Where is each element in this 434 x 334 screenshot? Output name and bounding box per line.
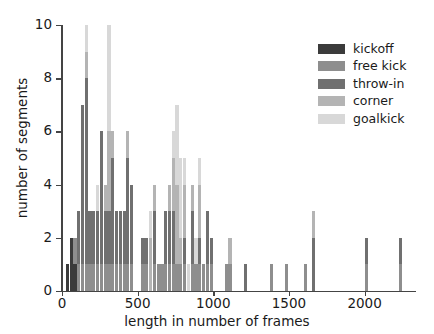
histogram-bar	[153, 185, 156, 212]
histogram-bar	[115, 211, 118, 264]
histogram-bar	[81, 105, 84, 265]
legend-label: corner	[353, 95, 393, 108]
histogram-bar	[172, 211, 175, 264]
histogram-bar	[198, 238, 201, 265]
histogram-bar	[228, 238, 231, 265]
histogram-bar	[172, 158, 175, 211]
histogram-bar	[70, 238, 73, 291]
legend-label: kickoff	[353, 43, 394, 56]
histogram-bar	[104, 264, 107, 291]
histogram-figure: 02468100500100015002000 length in number…	[0, 0, 434, 334]
histogram-bar	[107, 131, 110, 211]
histogram-bar	[198, 264, 201, 291]
histogram-bar	[111, 264, 114, 291]
histogram-bar	[73, 238, 76, 265]
histogram-bar	[111, 131, 114, 158]
histogram-bar	[365, 238, 368, 265]
histogram-bar	[107, 264, 110, 291]
histogram-bar	[285, 264, 288, 291]
histogram-bar	[130, 185, 133, 265]
histogram-bar	[198, 185, 201, 238]
histogram-bar	[183, 264, 186, 291]
histogram-bar	[175, 264, 178, 291]
histogram-bar	[179, 238, 182, 265]
legend-swatch-icon	[318, 61, 345, 71]
legend-item-kickoff: kickoff	[318, 40, 406, 58]
histogram-bar	[183, 158, 186, 185]
histogram-bar	[168, 264, 171, 291]
histogram-bar	[145, 264, 148, 291]
y-tick	[56, 238, 61, 239]
legend-label: free kick	[353, 60, 406, 73]
histogram-bar	[153, 211, 156, 264]
y-tick	[56, 291, 61, 292]
histogram-bar	[206, 211, 209, 264]
histogram-bar	[92, 264, 95, 291]
histogram-bar	[210, 238, 213, 265]
y-tick-label: 0	[0, 284, 52, 298]
histogram-bar	[194, 238, 197, 265]
histogram-bar	[104, 185, 107, 212]
histogram-bar	[160, 264, 163, 291]
y-tick	[56, 185, 61, 186]
histogram-bar	[399, 264, 402, 291]
legend-item-throw-in: throw-in	[318, 75, 406, 93]
x-tick-label: 500	[108, 297, 168, 311]
histogram-bar	[187, 264, 190, 291]
histogram-bar	[85, 264, 88, 291]
legend-item-corner: corner	[318, 93, 406, 111]
histogram-bar	[119, 211, 122, 264]
histogram-bar	[365, 264, 368, 291]
histogram-bar	[130, 264, 133, 291]
histogram-bar	[191, 211, 194, 264]
histogram-bar	[183, 238, 186, 265]
y-tick	[56, 78, 61, 79]
histogram-bar	[191, 264, 194, 291]
histogram-bar	[149, 211, 152, 238]
histogram-bar	[168, 185, 171, 212]
histogram-bar	[228, 264, 231, 291]
histogram-bar	[157, 264, 160, 291]
histogram-bar	[77, 211, 80, 264]
y-axis-line	[61, 25, 63, 292]
histogram-bar	[164, 211, 167, 264]
histogram-bar	[244, 264, 247, 291]
histogram-bar	[198, 158, 201, 185]
histogram-bar	[85, 25, 88, 52]
y-tick	[56, 131, 61, 132]
histogram-bar	[88, 211, 91, 264]
histogram-bar	[210, 264, 213, 291]
histogram-bar	[153, 264, 156, 291]
histogram-bar	[107, 25, 110, 131]
histogram-bar	[66, 264, 69, 291]
histogram-bar	[92, 211, 95, 264]
histogram-bar	[100, 264, 103, 291]
histogram-bar	[73, 264, 76, 291]
histogram-bar	[111, 158, 114, 264]
histogram-bar	[168, 211, 171, 264]
histogram-bar	[126, 131, 129, 158]
histogram-bar	[123, 211, 126, 264]
histogram-bar	[179, 158, 182, 238]
histogram-bar	[225, 264, 228, 291]
x-axis-label: length in number of frames	[0, 313, 434, 329]
x-tick-label: 0	[32, 297, 92, 311]
histogram-bar	[115, 264, 118, 291]
histogram-bar	[126, 264, 129, 291]
histogram-bar	[175, 185, 178, 265]
histogram-bar	[191, 185, 194, 212]
histogram-bar	[164, 264, 167, 291]
histogram-bar	[312, 238, 315, 291]
histogram-bar	[81, 264, 84, 291]
legend-label: goalkick	[353, 113, 405, 126]
legend-swatch-icon	[318, 79, 345, 89]
histogram-bar	[141, 238, 144, 265]
histogram-bar	[96, 185, 99, 212]
histogram-bar	[107, 211, 110, 264]
histogram-bar	[126, 158, 129, 264]
histogram-bar	[179, 264, 182, 291]
histogram-bar	[399, 238, 402, 265]
histogram-bar	[96, 264, 99, 291]
histogram-bar	[88, 264, 91, 291]
histogram-bar	[141, 264, 144, 291]
